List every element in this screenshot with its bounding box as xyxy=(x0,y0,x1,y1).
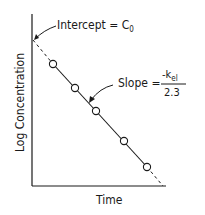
y-axis-label: Log Concentration xyxy=(13,53,27,152)
data-point xyxy=(71,84,78,91)
slope-arrow xyxy=(91,85,113,100)
slope-numerator-text: -k xyxy=(162,68,171,81)
data-point xyxy=(49,60,56,67)
intercept-extrapolation-dashed xyxy=(33,40,53,64)
intercept-text: Intercept = C xyxy=(57,18,129,32)
slope-numerator: -kel xyxy=(162,68,178,83)
slope-numerator-subscript: el xyxy=(171,74,177,83)
data-point xyxy=(143,163,150,170)
data-point xyxy=(92,107,99,114)
slope-denominator: 2.3 xyxy=(164,86,180,99)
x-axis-label: Time xyxy=(96,193,122,207)
slope-text: Slope = xyxy=(118,76,160,90)
data-point xyxy=(120,137,127,144)
slope-label: Slope = xyxy=(118,76,160,90)
intercept-subscript: 0 xyxy=(129,25,134,34)
intercept-arrowhead-icon xyxy=(34,34,39,40)
slope-arrowhead-icon xyxy=(89,96,95,103)
intercept-label: Intercept = C0 xyxy=(57,18,134,34)
